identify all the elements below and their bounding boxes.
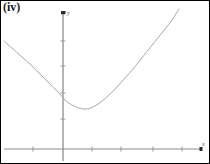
figure-panel: (iv) y x: [0, 0, 210, 164]
x-axis-label: x: [202, 141, 205, 147]
x-axis-group: [4, 147, 203, 152]
plot-canvas: [1, 1, 210, 164]
parabola-curve: [4, 9, 179, 109]
y-axis-top-marker: [61, 11, 66, 14]
y-axis-group: [61, 11, 66, 161]
y-axis-label: y: [67, 10, 70, 16]
x-axis-end-marker: [200, 147, 203, 151]
